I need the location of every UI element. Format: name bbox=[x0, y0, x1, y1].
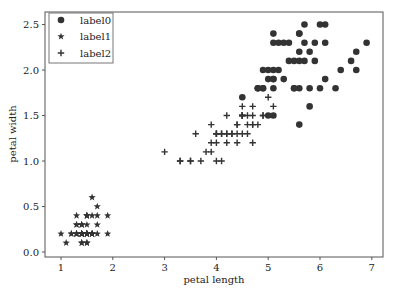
circle-marker bbox=[306, 103, 313, 110]
circle-marker bbox=[280, 76, 287, 83]
y-tick-label: 0.5 bbox=[23, 201, 39, 212]
legend-label: label0 bbox=[80, 15, 111, 26]
circle-marker bbox=[312, 39, 319, 46]
circle-marker bbox=[239, 94, 246, 101]
circle-marker bbox=[363, 39, 370, 46]
circle-marker bbox=[322, 21, 329, 28]
legend: label0label1label2 bbox=[49, 13, 113, 63]
y-tick-label: 2.5 bbox=[23, 19, 39, 30]
circle-marker bbox=[296, 121, 303, 128]
y-axis-label: petal width bbox=[7, 105, 18, 163]
legend-label: label2 bbox=[80, 48, 111, 59]
circle-marker bbox=[260, 67, 267, 74]
circle-marker bbox=[306, 85, 313, 92]
x-tick-label: 1 bbox=[58, 262, 64, 273]
circle-marker bbox=[332, 85, 339, 92]
circle-marker bbox=[317, 85, 324, 92]
circle-marker bbox=[353, 49, 360, 56]
x-tick-label: 3 bbox=[161, 262, 167, 273]
circle-marker bbox=[291, 85, 298, 92]
y-tick-label: 1.5 bbox=[23, 110, 39, 121]
legend-label: label1 bbox=[80, 31, 111, 42]
scatter-chart: 12345670.00.51.01.52.02.5 petal length p… bbox=[0, 0, 395, 297]
circle-marker bbox=[301, 39, 308, 46]
circle-marker bbox=[301, 21, 308, 28]
circle-marker bbox=[265, 76, 272, 83]
x-axis-label: petal length bbox=[183, 274, 245, 285]
circle-marker bbox=[286, 39, 293, 46]
circle-marker bbox=[270, 112, 277, 119]
circle-marker bbox=[270, 30, 277, 37]
circle-marker bbox=[353, 67, 360, 74]
circle-marker bbox=[322, 76, 329, 83]
y-tick-label: 2.0 bbox=[23, 65, 39, 76]
circle-marker bbox=[58, 17, 65, 24]
x-tick-label: 2 bbox=[110, 262, 116, 273]
x-tick-label: 6 bbox=[317, 262, 323, 273]
circle-marker bbox=[337, 67, 344, 74]
circle-marker bbox=[275, 39, 282, 46]
circle-marker bbox=[296, 49, 303, 56]
circle-marker bbox=[270, 85, 277, 92]
circle-marker bbox=[322, 39, 329, 46]
circle-marker bbox=[275, 67, 282, 74]
x-tick-label: 4 bbox=[213, 262, 219, 273]
x-tick-label: 5 bbox=[265, 262, 271, 273]
y-tick-label: 1.0 bbox=[23, 156, 39, 167]
circle-marker bbox=[286, 58, 293, 65]
y-tick-label: 0.0 bbox=[23, 247, 39, 258]
circle-marker bbox=[312, 58, 319, 65]
circle-marker bbox=[296, 30, 303, 37]
circle-marker bbox=[348, 58, 355, 65]
circle-marker bbox=[306, 49, 313, 56]
x-tick-label: 7 bbox=[369, 262, 375, 273]
circle-marker bbox=[296, 58, 303, 65]
